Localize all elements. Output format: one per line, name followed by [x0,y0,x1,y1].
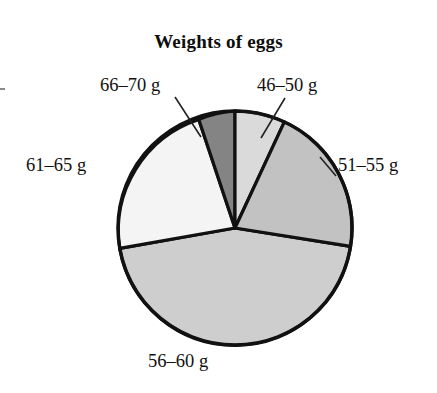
pie-label-56-60g: 56–60 g [148,352,208,371]
page-edge-mark [0,88,5,90]
pie-label-66-70g: 66–70 g [100,76,160,95]
pie-label-61-65g: 61–65 g [26,156,86,175]
pie-chart-graphic [0,0,437,393]
pie-label-51-55g: 51–55 g [338,156,398,175]
pie-slice-56-60g[interactable] [120,228,351,345]
figure-pie-chart-weights-of-eggs: Weights of eggs 46–50 g 51–55 g 56–60 g … [0,0,437,393]
pie-label-46-50g: 46–50 g [257,76,317,95]
